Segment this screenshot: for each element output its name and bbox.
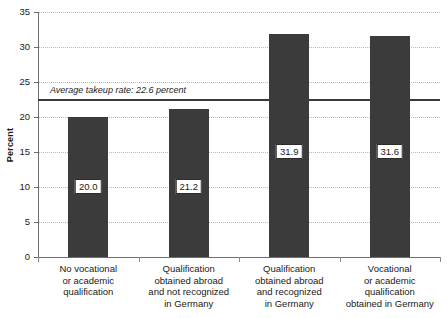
plot-area: 05101520253035 20.021.231.931.6 Average … — [38, 12, 440, 257]
y-axis-tick — [34, 82, 39, 83]
y-axis-line — [38, 12, 39, 257]
y-axis-tick — [34, 152, 39, 153]
y-axis-label: 10 — [4, 182, 30, 191]
average-takeup-label: Average takeup rate: 22.6 percent — [50, 85, 186, 95]
gridline — [39, 12, 440, 13]
y-axis-label: 0 — [4, 252, 30, 261]
bar-value-label: 20.0 — [75, 179, 102, 194]
y-axis-label: 5 — [4, 217, 30, 226]
bar-value-label: 31.9 — [276, 144, 303, 159]
y-axis-label: 25 — [4, 77, 30, 86]
y-axis-tick — [34, 117, 39, 118]
x-axis-category-label: No vocational or academic qualification — [38, 263, 139, 298]
y-axis-tick — [34, 187, 39, 188]
y-axis-tick — [34, 222, 39, 223]
average-takeup-line — [38, 99, 440, 101]
y-axis-label: 30 — [4, 42, 30, 51]
x-axis-tick — [139, 257, 140, 262]
y-axis-title: Percent — [5, 115, 15, 175]
y-axis-tick — [34, 12, 39, 13]
x-axis-category-label: Vocational or academic qualification obt… — [340, 263, 441, 309]
bar-value-label: 21.2 — [176, 179, 203, 194]
y-axis-label: 15 — [4, 147, 30, 156]
bar-value-label: 31.6 — [377, 144, 404, 159]
x-axis-tick — [239, 257, 240, 262]
x-axis-category-label: Qualification obtained abroad and recogn… — [239, 263, 340, 309]
x-axis-tick — [440, 257, 441, 262]
y-axis-tick — [34, 47, 39, 48]
x-axis-category-label: Qualification obtained abroad and not re… — [139, 263, 240, 309]
bar-chart: Percent 05101520253035 20.021.231.931.6 … — [0, 0, 447, 318]
x-axis-tick — [38, 257, 39, 262]
x-axis-tick — [340, 257, 341, 262]
y-axis-label: 35 — [4, 7, 30, 16]
y-axis-label: 20 — [4, 112, 30, 121]
